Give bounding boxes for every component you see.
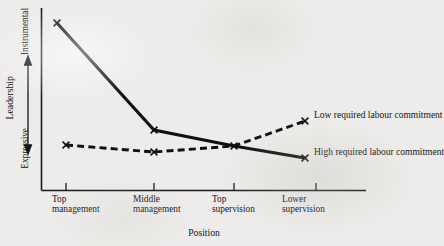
- series-high-required-labour-commitment: [57, 23, 305, 158]
- y-axis-top-label: Instrumental: [21, 8, 30, 55]
- markers-high-required: [54, 20, 309, 162]
- x-tick-label-middle-management: Middle management: [133, 194, 181, 215]
- x-tick-label-top-management: Top management: [52, 194, 100, 215]
- y-axis-title: Leadership: [5, 76, 15, 120]
- x-tick-label-lower-supervision: Lower supervision: [282, 194, 325, 215]
- legend-label-low-required: Low required labour commitment: [314, 110, 443, 121]
- legend-label-high-required: High required labour commitment: [314, 147, 444, 158]
- x-axis-title: Position: [0, 228, 408, 239]
- x-tick-label-top-supervision: Top supervision: [212, 194, 255, 215]
- y-axis-bottom-label: Expressive: [21, 128, 30, 169]
- x-axis-ticks: [66, 183, 316, 191]
